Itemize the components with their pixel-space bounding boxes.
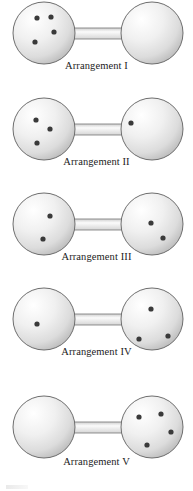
particle <box>148 306 153 311</box>
arrangement-1: Arrangement I <box>0 0 193 68</box>
particle <box>128 120 133 125</box>
particle <box>47 213 52 218</box>
arrangement-2: Arrangement II <box>0 96 193 164</box>
particle <box>47 126 52 131</box>
particle <box>160 235 165 240</box>
particle <box>48 14 53 19</box>
page-edge-artifact <box>6 485 28 489</box>
arrangement-4: Arrangement IV <box>0 286 193 354</box>
arrangement-4-diagram <box>0 286 193 354</box>
arrangement-1-diagram <box>0 0 193 68</box>
arrangement-3-label: Arrangement III <box>0 251 193 262</box>
arrangement-5-diagram <box>0 381 193 459</box>
particle <box>136 414 141 419</box>
particle <box>34 140 39 145</box>
particle <box>148 220 153 225</box>
particle-group-left <box>34 321 39 326</box>
gas-distribution-figure: Arrangement I <box>0 0 193 491</box>
particle <box>40 236 45 241</box>
arrangement-5: Arrangement V <box>0 381 193 459</box>
particle <box>34 321 39 326</box>
particle <box>165 333 170 338</box>
arrangement-2-diagram <box>0 96 193 164</box>
particle <box>136 336 141 341</box>
arrangement-3: Arrangement III <box>0 191 193 259</box>
arrangement-2-label: Arrangement II <box>0 156 193 167</box>
particle <box>33 117 38 122</box>
particle <box>144 442 149 447</box>
arrangement-1-label: Arrangement I <box>0 60 193 71</box>
particle <box>168 429 173 434</box>
particle <box>32 39 37 44</box>
arrangement-3-diagram <box>0 191 193 259</box>
particle <box>34 15 39 20</box>
particle <box>51 29 56 34</box>
particle <box>158 411 163 416</box>
particle-group-right <box>128 120 133 125</box>
arrangement-5-label: Arrangement V <box>0 456 193 467</box>
arrangement-4-label: Arrangement IV <box>0 346 193 357</box>
